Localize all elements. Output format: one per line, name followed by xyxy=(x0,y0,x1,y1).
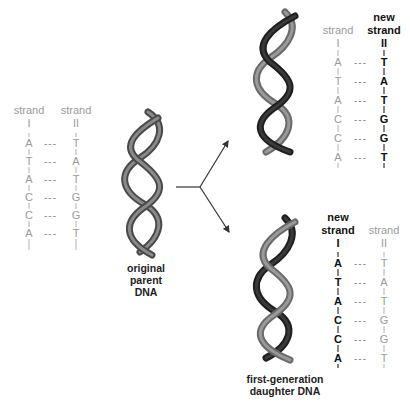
hydrogen-bond: --- xyxy=(354,278,367,288)
daughter-dna-caption: first-generation daughter DNA xyxy=(225,373,345,397)
hydrogen-bond: --- xyxy=(354,134,367,144)
hydrogen-bond: --- xyxy=(354,316,367,326)
daughter-bottom-strand-II-numeral: II xyxy=(362,237,406,249)
caption-line: daughter DNA xyxy=(225,385,345,397)
hydrogen-bond: --- xyxy=(354,96,367,106)
base: C xyxy=(22,209,36,221)
hydrogen-bond: --- xyxy=(354,58,367,68)
base: T xyxy=(377,56,391,68)
parent-helix-icon xyxy=(125,112,160,255)
base: A xyxy=(22,137,36,149)
caption-line: parent xyxy=(110,274,182,286)
hydrogen-bond: --- xyxy=(44,175,57,185)
hydrogen-bond: --- xyxy=(354,115,367,125)
hydrogen-bond: --- xyxy=(354,297,367,307)
base: C xyxy=(331,113,345,125)
daughter-bottom-strand-II-header: strand xyxy=(362,224,406,236)
hydrogen-bond: --- xyxy=(354,335,367,345)
base: T xyxy=(377,295,391,307)
daughter-top-strand-II-header: strand xyxy=(362,24,406,36)
daughter-top-new-label: new xyxy=(362,11,406,23)
hydrogen-bond: --- xyxy=(44,211,57,221)
base: G xyxy=(377,314,391,326)
base: A xyxy=(377,75,391,87)
daughter-top-strand-I-header: strand xyxy=(316,24,360,36)
hydrogen-bond: --- xyxy=(44,157,57,167)
daughter-bottom-strand-I-numeral: I xyxy=(316,237,360,249)
base: C xyxy=(331,333,345,345)
base: A xyxy=(331,151,345,163)
base: T xyxy=(377,352,391,364)
parent-strand-II-header: strand xyxy=(54,104,98,116)
daughter-helix-top-icon xyxy=(256,12,295,152)
base: T xyxy=(69,137,83,149)
base: G xyxy=(69,191,83,203)
diagram-graphics xyxy=(0,0,410,409)
base: A xyxy=(331,352,345,364)
hydrogen-bond: --- xyxy=(354,354,367,364)
hydrogen-bond: --- xyxy=(354,77,367,87)
caption-line: first-generation xyxy=(225,373,345,385)
base: G xyxy=(377,132,391,144)
base: A xyxy=(22,227,36,239)
base: T xyxy=(22,155,36,167)
base: A xyxy=(331,257,345,269)
replication-arrow-icon xyxy=(176,141,229,232)
daughter-bottom-strand-I-header: strand xyxy=(316,224,360,236)
hydrogen-bond: --- xyxy=(44,139,57,149)
base: G xyxy=(377,113,391,125)
base: T xyxy=(377,257,391,269)
daughter-top-strand-II-numeral: II xyxy=(362,37,406,49)
hydrogen-bond: --- xyxy=(354,259,367,269)
base: T xyxy=(69,227,83,239)
base: A xyxy=(377,276,391,288)
base: T xyxy=(377,94,391,106)
hydrogen-bond: --- xyxy=(44,193,57,203)
daughter-top-strand-I-numeral: I xyxy=(316,37,360,49)
base: A xyxy=(22,173,36,185)
caption-line: original xyxy=(110,262,182,274)
parent-strand-I-numeral: I xyxy=(7,117,51,129)
parent-dna-caption: original parent DNA xyxy=(110,262,182,298)
base: A xyxy=(69,155,83,167)
caption-line: DNA xyxy=(110,286,182,298)
daughter-helix-bottom-icon xyxy=(256,218,295,360)
base: T xyxy=(69,173,83,185)
base: T xyxy=(331,276,345,288)
hydrogen-bond: --- xyxy=(354,153,367,163)
base: C xyxy=(22,191,36,203)
base: T xyxy=(331,75,345,87)
base: A xyxy=(331,56,345,68)
hydrogen-bond: --- xyxy=(44,229,57,239)
parent-strand-II-numeral: II xyxy=(54,117,98,129)
daughter-bottom-backbones xyxy=(338,252,384,368)
base: A xyxy=(331,295,345,307)
base: A xyxy=(331,94,345,106)
base: C xyxy=(331,314,345,326)
parent-strand-I-header: strand xyxy=(7,104,51,116)
base: C xyxy=(331,132,345,144)
base: G xyxy=(377,333,391,345)
base: T xyxy=(377,151,391,163)
base: G xyxy=(69,209,83,221)
daughter-bottom-new-label: new xyxy=(316,211,360,223)
